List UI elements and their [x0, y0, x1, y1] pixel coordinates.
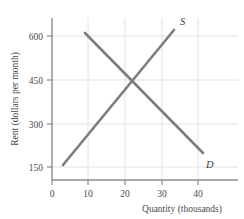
y-tick-label-450: 450	[29, 76, 44, 86]
y-tick-label-150: 150	[29, 163, 44, 173]
supply-curve-label: S	[180, 16, 186, 27]
y-tick-marks	[47, 36, 52, 167]
x-tick-marks	[52, 180, 198, 185]
x-tick-label-30: 30	[157, 189, 167, 199]
demand-curve	[85, 33, 203, 153]
x-tick-label-10: 10	[83, 189, 93, 199]
y-tick-label-600: 600	[29, 32, 44, 42]
x-axis-title: Quantity (thousands)	[142, 204, 222, 215]
supply-demand-chart: 600 450 300 150 0 10 20 30 40 Rent (doll…	[0, 0, 244, 219]
y-tick-labels: 600 450 300 150	[29, 32, 44, 173]
x-tick-label-40: 40	[193, 189, 203, 199]
x-tick-labels: 0 10 20 30 40	[50, 189, 203, 199]
horizontal-gridlines	[52, 36, 238, 167]
demand-curve-label: D	[205, 159, 214, 170]
vertical-gridlines	[88, 18, 198, 180]
supply-curve	[63, 30, 174, 165]
x-tick-label-0: 0	[50, 189, 55, 199]
chart-svg: 600 450 300 150 0 10 20 30 40 Rent (doll…	[0, 0, 244, 219]
y-axis-title: Rent (dollars per month)	[10, 52, 21, 146]
x-tick-label-20: 20	[120, 189, 130, 199]
y-tick-label-300: 300	[29, 120, 44, 130]
